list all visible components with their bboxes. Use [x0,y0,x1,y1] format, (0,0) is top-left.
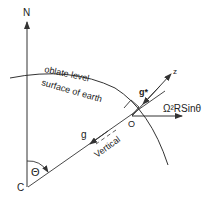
right-angle-marker [124,100,139,115]
surface-label-line2: surface of earth [40,77,103,104]
origin-label: O [128,119,135,129]
g-star-label: g* [139,87,148,97]
vertical-label: Vertical [92,134,122,159]
center-label: C [17,182,24,193]
g-label: g [81,129,87,140]
z-label: z [173,67,177,76]
theta-label: Θ [31,166,40,178]
geoid-vector-diagram: N oblate level surface of earth z g* Ω²R… [0,0,217,197]
north-label: N [23,7,30,18]
centrifugal-label: Ω²RSinθ [163,103,201,114]
